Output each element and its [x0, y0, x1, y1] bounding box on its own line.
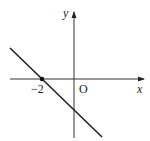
graph-line	[10, 48, 102, 137]
x-intercept-label: −2	[31, 82, 44, 96]
origin-label: O	[79, 82, 88, 96]
coordinate-diagram: y x O −2	[0, 0, 150, 141]
y-axis-label: y	[62, 6, 69, 20]
x-intercept-point	[40, 77, 44, 81]
x-axis-label: x	[136, 82, 143, 96]
